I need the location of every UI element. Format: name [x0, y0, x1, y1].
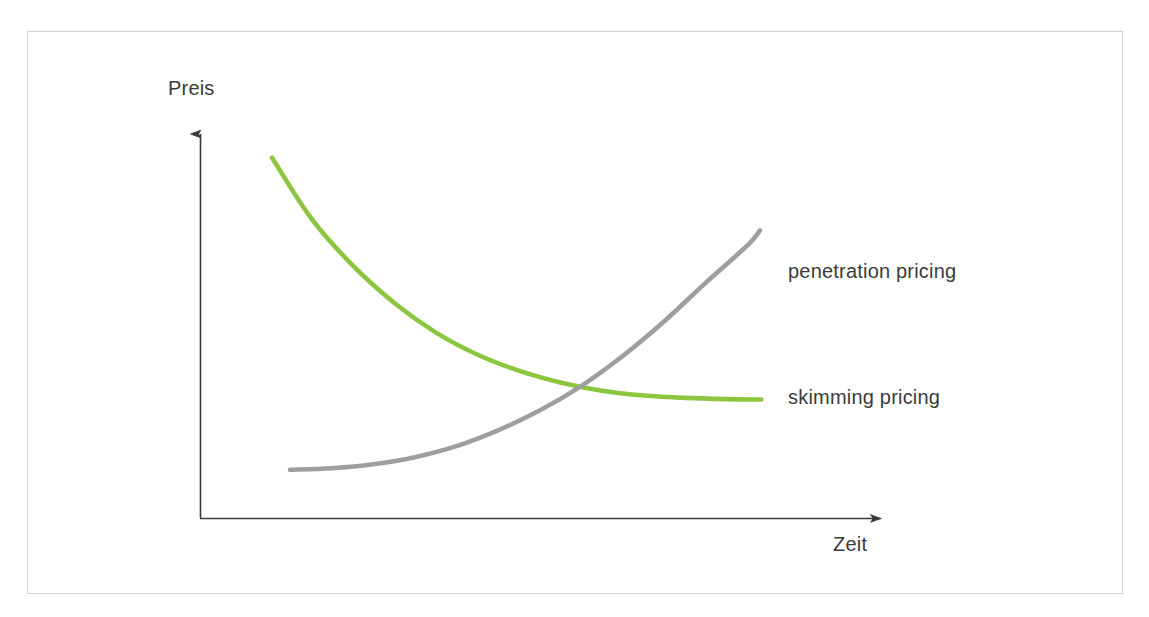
figure-root: Preis Zeit penetration pricing skimming …	[0, 0, 1149, 617]
series-label-skimming-pricing: skimming pricing	[788, 386, 940, 409]
chart-frame-border	[27, 31, 1123, 594]
series-label-penetration-pricing: penetration pricing	[788, 260, 956, 283]
x-axis-label: Zeit	[833, 533, 867, 556]
y-axis-label: Preis	[168, 77, 215, 100]
